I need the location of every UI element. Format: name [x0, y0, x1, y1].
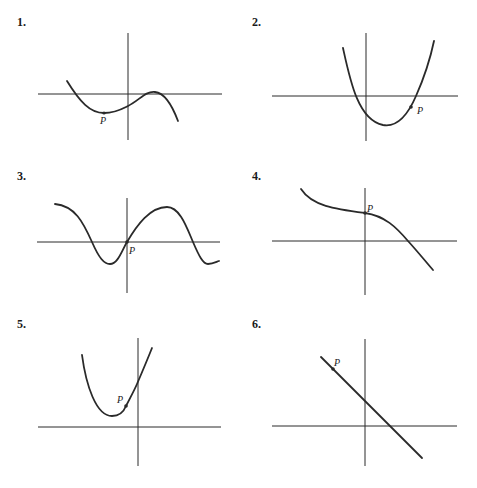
graph-number: 3. [17, 169, 26, 183]
point-p-label: P [366, 203, 373, 214]
graph-2: 2. P [252, 15, 458, 141]
function-line [321, 357, 422, 458]
function-curve [301, 189, 433, 270]
function-curve [82, 348, 152, 416]
graph-number: 1. [17, 15, 26, 29]
graphs-figure: 1. P 2. P 3. P 4. P 5. P [0, 0, 477, 488]
graph-6: 6. P [252, 317, 457, 466]
function-curve [67, 81, 178, 121]
graph-4: 4. P [252, 169, 457, 295]
point-p [409, 105, 413, 109]
graph-3: 3. P [17, 169, 220, 293]
graph-number: 4. [252, 169, 261, 183]
graph-number: 6. [252, 317, 261, 331]
graph-1: 1. P [17, 15, 222, 140]
function-curve [55, 204, 219, 264]
point-p-label: P [116, 394, 123, 405]
graph-number: 5. [17, 317, 26, 331]
point-p [125, 240, 129, 244]
point-p-label: P [128, 245, 135, 256]
point-p [124, 404, 128, 408]
point-p-label: P [99, 115, 106, 126]
graph-5: 5. P [17, 317, 221, 466]
point-p-label: P [333, 357, 340, 368]
graph-number: 2. [252, 15, 261, 29]
point-p-label: P [416, 105, 423, 116]
